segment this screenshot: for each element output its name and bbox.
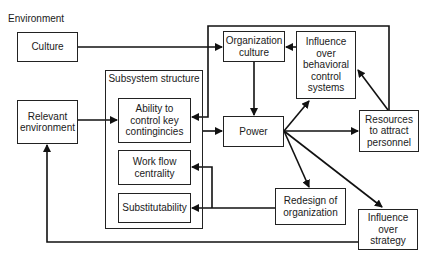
node-relevant-environment: Relevant environment — [17, 100, 78, 144]
subsystem-structure-label: Subsystem structure — [105, 73, 203, 85]
edge-resources-influence — [358, 70, 388, 110]
environment-label: Environment — [8, 13, 64, 25]
edge-power-redesign — [284, 131, 309, 187]
node-resources: Resources to attract personnel — [359, 110, 419, 152]
node-work-flow: Work flow centrality — [118, 150, 191, 185]
edge-power-influence — [284, 101, 309, 131]
node-culture: Culture — [17, 32, 78, 62]
node-influence-strategy: Influence over strategy — [358, 209, 418, 250]
node-substitutability: Substitutability — [118, 193, 191, 223]
node-organization-culture: Organization culture — [223, 31, 285, 62]
node-influence-behavioral: Influence over behavioral control system… — [296, 31, 356, 99]
node-ability: Ability to control key contingincies — [118, 98, 191, 143]
node-redesign: Redesign of organization — [275, 188, 346, 225]
node-power: Power — [223, 116, 284, 147]
